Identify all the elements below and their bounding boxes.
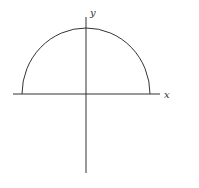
y-axis-label: y: [89, 7, 96, 18]
x-axis-label: x: [164, 89, 170, 100]
semicircle-diagram: y x: [0, 0, 199, 188]
